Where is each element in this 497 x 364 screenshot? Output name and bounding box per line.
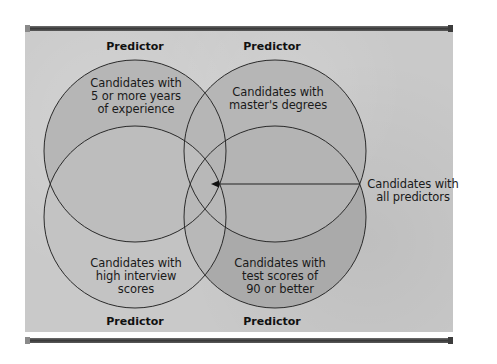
predictor-header-bottom-right: Predictor [222, 315, 322, 328]
set-label-line: of experience [80, 103, 192, 116]
set-label-line: master's degrees [222, 99, 334, 112]
predictor-header-top-left: Predictor [85, 40, 185, 53]
predictor-header-bottom-left: Predictor [85, 315, 185, 328]
set-label-line: scores [80, 283, 192, 296]
set-label-line: 90 or better [224, 283, 336, 296]
callout-label-line: all predictors [363, 191, 463, 204]
set-label-experience: Candidates with 5 or more years of exper… [80, 77, 192, 116]
set-label-masters: Candidates with master's degrees [222, 86, 334, 112]
predictor-header-top-right: Predictor [222, 40, 322, 53]
set-label-interview: Candidates with high interview scores [80, 257, 192, 296]
callout-label-all-predictors: Candidates with all predictors [363, 178, 463, 204]
set-label-test-scores: Candidates with test scores of 90 or bet… [224, 257, 336, 296]
